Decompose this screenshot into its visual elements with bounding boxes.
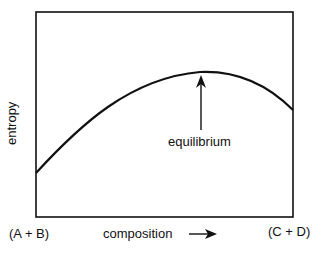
plot-frame <box>36 12 293 217</box>
x-right-label: (C + D) <box>268 224 310 239</box>
y-axis-label: entropy <box>4 102 19 145</box>
diagram-canvas <box>0 0 321 255</box>
x-left-label: (A + B) <box>9 226 49 241</box>
equilibrium-label: equilibrium <box>168 134 231 149</box>
entropy-curve <box>36 72 293 173</box>
x-axis-label: composition <box>103 226 172 241</box>
